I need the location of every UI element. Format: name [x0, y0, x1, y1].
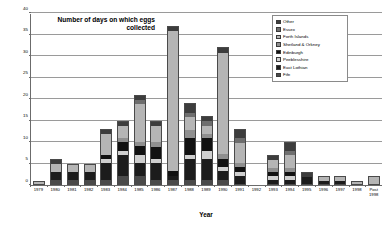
legend-item[interactable]: Shetland & Orkney	[276, 41, 345, 49]
legend-item-label: Forth Islands	[283, 34, 308, 39]
bar-segment[interactable]	[168, 180, 178, 184]
bar-segment[interactable]	[268, 180, 278, 184]
bar-segment[interactable]	[68, 165, 78, 173]
bar-segment[interactable]	[68, 180, 78, 184]
bar-segment[interactable]	[151, 147, 161, 160]
bar-stack[interactable]	[368, 176, 380, 185]
bar-segment[interactable]	[202, 126, 212, 134]
y-tick-mark	[29, 12, 31, 13]
bar-segment[interactable]	[135, 176, 145, 184]
bar-segment[interactable]	[51, 164, 61, 172]
legend-item-label: Essex	[283, 27, 295, 32]
bar-segment[interactable]	[85, 172, 95, 180]
bar-stack[interactable]	[100, 129, 112, 185]
bar-stack[interactable]	[318, 176, 330, 185]
bar-segment[interactable]	[185, 104, 195, 112]
bar-segment[interactable]	[185, 130, 195, 138]
bar-stack[interactable]	[351, 181, 363, 185]
bar-stack[interactable]	[184, 103, 196, 185]
bar-segment[interactable]	[68, 172, 78, 180]
bar-segment[interactable]	[235, 130, 245, 138]
bar-segment[interactable]	[118, 126, 128, 139]
bar-segment[interactable]	[135, 104, 145, 142]
bar-segment[interactable]	[285, 155, 295, 167]
x-tick-mark	[365, 185, 366, 187]
legend-item[interactable]: Forth Islands	[276, 33, 345, 41]
bar-segment[interactable]	[151, 163, 161, 180]
x-tick-mark	[164, 185, 165, 187]
bar-stack[interactable]	[67, 164, 79, 186]
bar-segment[interactable]	[151, 126, 161, 143]
x-tick-label: 1982	[84, 188, 93, 193]
bar-stack[interactable]	[167, 26, 179, 185]
bar-segment[interactable]	[202, 138, 212, 151]
bar-slot	[165, 14, 182, 185]
bar-segment[interactable]	[202, 180, 212, 184]
bar-segment[interactable]	[319, 181, 329, 184]
bar-segment[interactable]	[218, 159, 228, 167]
bar-stack[interactable]	[234, 129, 246, 185]
bar-segment[interactable]	[151, 180, 161, 184]
bar-segment[interactable]	[335, 181, 345, 184]
bar-segment[interactable]	[85, 165, 95, 173]
bar-segment[interactable]	[185, 180, 195, 184]
bar-stack[interactable]	[267, 155, 279, 185]
bar-segment[interactable]	[235, 143, 245, 164]
bar-segment[interactable]	[369, 177, 379, 184]
legend-item[interactable]: Essex	[276, 26, 345, 34]
bar-segment[interactable]	[135, 146, 145, 154]
bar-stack[interactable]	[217, 47, 229, 185]
bar-segment[interactable]	[285, 143, 295, 151]
bar-segment[interactable]	[268, 160, 278, 168]
x-tick-mark	[80, 185, 81, 187]
bar-stack[interactable]	[334, 176, 346, 185]
bar-segment[interactable]	[118, 155, 128, 176]
bar-stack[interactable]	[134, 95, 146, 185]
bar-segment[interactable]	[202, 159, 212, 180]
bar-segment[interactable]	[118, 142, 128, 150]
bar-segment[interactable]	[135, 163, 145, 176]
bar-stack[interactable]	[33, 181, 45, 185]
bar-stack[interactable]	[50, 159, 62, 185]
legend-item[interactable]: Fife	[276, 71, 345, 79]
bar-segment[interactable]	[185, 117, 195, 130]
bar-segment[interactable]	[51, 172, 61, 180]
x-tick-mark	[30, 185, 31, 187]
bar-slot	[98, 14, 115, 185]
bar-stack[interactable]	[201, 116, 213, 185]
bar-segment[interactable]	[185, 138, 195, 155]
bar-segment[interactable]	[235, 176, 245, 184]
bar-segment[interactable]	[302, 177, 312, 184]
x-tick-label: 1983	[101, 188, 110, 193]
legend-item[interactable]: Edinburgh	[276, 48, 345, 56]
x-tick-label: 1995	[302, 188, 311, 193]
bar-segment[interactable]	[51, 180, 61, 184]
legend-item[interactable]: Peeblesshire	[276, 56, 345, 64]
bar-segment[interactable]	[218, 171, 228, 179]
legend-item-label: Edinburgh	[283, 50, 303, 55]
legend-item[interactable]: Other	[276, 18, 345, 26]
bar-segment[interactable]	[85, 180, 95, 184]
x-tick-label: 1993	[268, 188, 277, 193]
bar-segment[interactable]	[168, 31, 178, 171]
bar-stack[interactable]	[301, 172, 313, 185]
bar-segment[interactable]	[285, 180, 295, 184]
bar-segment[interactable]	[185, 159, 195, 180]
bar-segment[interactable]	[118, 176, 128, 184]
bar-segment[interactable]	[101, 180, 111, 184]
bar-segment[interactable]	[202, 151, 212, 159]
bar-stack[interactable]	[117, 121, 129, 186]
bar-stack[interactable]	[84, 164, 96, 186]
bar-slot	[215, 14, 232, 185]
bar-segment[interactable]	[218, 53, 228, 155]
bar-segment[interactable]	[135, 155, 145, 163]
bar-segment[interactable]	[352, 182, 362, 184]
bar-segment[interactable]	[218, 180, 228, 184]
bar-stack[interactable]	[150, 121, 162, 186]
bar-segment[interactable]	[101, 163, 111, 180]
bar-segment[interactable]	[101, 134, 111, 155]
bar-segment[interactable]	[34, 182, 44, 184]
bar-stack[interactable]	[284, 142, 296, 185]
legend-item[interactable]: East Lothian	[276, 64, 345, 72]
legend-swatch	[276, 27, 281, 32]
